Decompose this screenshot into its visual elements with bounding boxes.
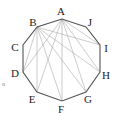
vertex-label-g: G <box>84 93 92 105</box>
vertex-label-i: I <box>104 42 108 54</box>
diagonal-B-I <box>37 27 100 45</box>
diagonal-B-D <box>23 27 37 72</box>
decagon-outline <box>23 19 100 101</box>
decagon-diagram: ABCDEFGHIJ o <box>0 0 117 123</box>
vertex-label-e: E <box>29 93 36 105</box>
diagonal-A-H <box>62 19 100 72</box>
side-mark: o <box>2 81 5 87</box>
vertex-label-j: J <box>88 16 93 28</box>
vertex-label-h: H <box>102 69 110 81</box>
vertex-label-b: B <box>29 16 36 28</box>
diagonal-A-I <box>62 19 100 45</box>
vertex-label-d: D <box>11 67 19 79</box>
diagonal-B-G <box>37 27 86 92</box>
vertex-label-a: A <box>57 5 65 17</box>
vertex-label-c: C <box>11 41 18 53</box>
diagonal-A-G <box>62 19 86 92</box>
vertex-label-f: F <box>58 103 64 115</box>
diagonal-B-F <box>37 27 62 101</box>
